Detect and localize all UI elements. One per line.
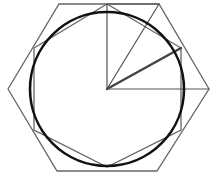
diagram-canvas <box>0 0 214 179</box>
geometry-diagram <box>0 0 214 179</box>
